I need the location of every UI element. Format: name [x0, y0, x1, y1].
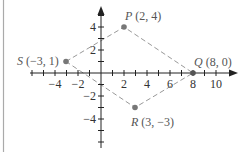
x-tick-label: 2: [121, 77, 127, 91]
y-axis-arrow-icon: [98, 6, 105, 15]
point-p: [121, 24, 127, 30]
point-s: [63, 59, 69, 65]
y-tick-label: 2: [90, 43, 96, 57]
y-tick-label: −2: [83, 89, 96, 103]
y-tick-label: −4: [83, 112, 96, 126]
label-r: R (3, −3): [130, 115, 174, 129]
label-s: S (−3, 1): [17, 54, 59, 68]
x-tick-label: 6: [167, 77, 173, 91]
x-tick-label: 4: [144, 77, 150, 91]
x-axis-arrow-icon: [229, 70, 238, 77]
x-tick-label: 8: [190, 77, 196, 91]
x-tick-label: 10: [210, 77, 222, 91]
y-tick-label: 4: [90, 20, 96, 34]
label-q: Q (8, 0): [194, 55, 232, 69]
point-r: [132, 105, 138, 111]
coordinate-plane: −4 −2 2 4 6 8 10 4 2 −2 −4 P (2, 4) Q (8…: [0, 0, 246, 152]
x-tick-label: −4: [49, 77, 62, 91]
label-p: P (2, 4): [124, 9, 161, 23]
point-q: [190, 70, 196, 76]
